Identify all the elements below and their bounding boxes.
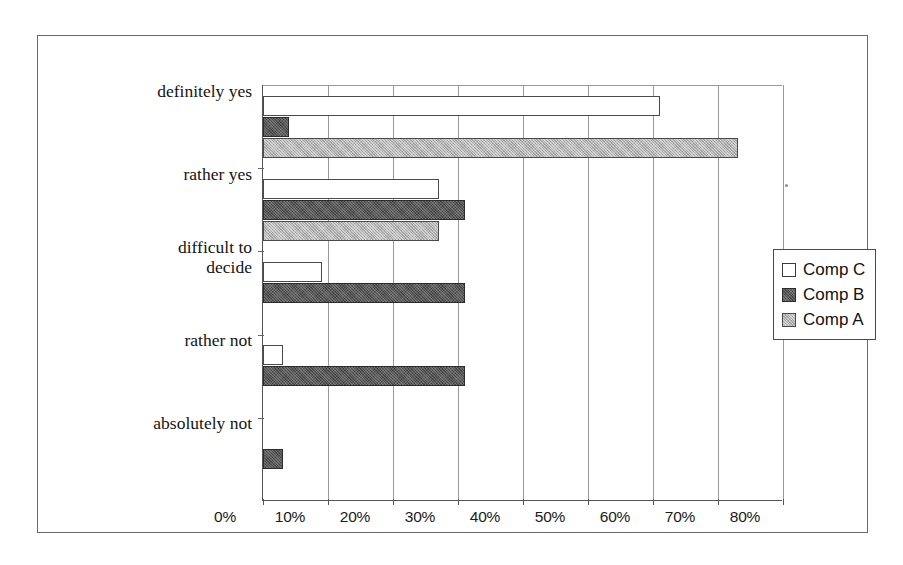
bar-comp-c: [263, 345, 283, 365]
x-axis-tick: [653, 499, 654, 505]
legend-item-label: Comp B: [803, 285, 864, 305]
x-axis-tick: [783, 499, 784, 505]
x-axis-tick-label: 50%: [535, 508, 565, 526]
y-axis-category-label: definitely yes: [67, 82, 252, 102]
x-axis-tick-label: 0%: [214, 508, 236, 526]
legend-swatch-icon: [782, 263, 796, 277]
x-axis-tick: [393, 499, 394, 505]
scan-artifact-speck: [785, 184, 788, 187]
bar-comp-c: [263, 96, 660, 116]
x-axis-tick: [523, 499, 524, 505]
legend-item: Comp B: [782, 282, 865, 307]
y-axis-tick: [258, 335, 264, 336]
x-axis-tick-label: 70%: [665, 508, 695, 526]
legend-item: Comp C: [782, 257, 865, 282]
bar-comp-b: [263, 366, 465, 386]
x-axis-tick-label: 10%: [275, 508, 305, 526]
legend-item: Comp A: [782, 307, 865, 332]
x-axis-tick-label: 40%: [470, 508, 500, 526]
x-axis-tick-label: 60%: [600, 508, 630, 526]
x-axis-tick-label: 80%: [730, 508, 760, 526]
x-axis-tick: [458, 499, 459, 505]
legend-item-label: Comp A: [803, 310, 863, 330]
y-axis-tick: [258, 168, 264, 169]
bar-comp-a: [263, 138, 738, 158]
x-axis-tick-label: 30%: [405, 508, 435, 526]
x-axis-tick-label: 20%: [340, 508, 370, 526]
figure-frame: definitely yesrather yesdifficult to dec…: [37, 35, 868, 533]
legend-swatch-icon: [782, 313, 796, 327]
bar-comp-c: [263, 262, 322, 282]
bar-comp-c: [263, 179, 439, 199]
plot-area: [262, 85, 782, 501]
bar-comp-b: [263, 283, 465, 303]
y-axis-tick: [258, 251, 264, 252]
x-axis-tick: [588, 499, 589, 505]
y-axis-category-label: absolutely not: [67, 414, 252, 434]
y-axis-tick: [258, 418, 264, 419]
x-axis-tick: [328, 499, 329, 505]
legend-item-label: Comp C: [803, 260, 865, 280]
y-axis-category-labels: definitely yesrather yesdifficult to dec…: [64, 36, 252, 565]
x-axis-tick: [718, 499, 719, 505]
y-axis-category-label: difficult to decide: [67, 238, 252, 278]
bar-comp-b: [263, 117, 289, 137]
y-axis-category-label: rather yes: [67, 165, 252, 185]
bar-comp-b: [263, 449, 283, 469]
legend-swatch-icon: [782, 288, 796, 302]
chart-legend: Comp CComp BComp A: [773, 249, 876, 340]
y-axis-category-label: rather not: [67, 331, 252, 351]
bar-comp-b: [263, 200, 465, 220]
bar-comp-a: [263, 221, 439, 241]
x-axis-tick: [263, 499, 264, 505]
